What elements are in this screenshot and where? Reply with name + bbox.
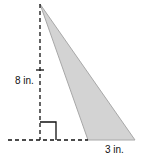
height-label: 8 in.	[15, 75, 34, 86]
triangle-diagram: 8 in. 3 in.	[0, 0, 141, 161]
base-label: 3 in.	[105, 144, 124, 155]
triangle	[40, 4, 135, 140]
right-angle-marker	[40, 122, 56, 140]
